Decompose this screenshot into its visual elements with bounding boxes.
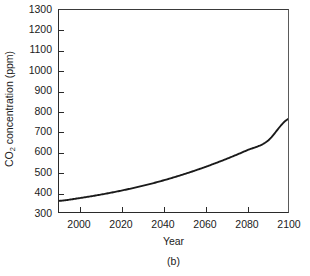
y-tick-label: 1200 <box>18 24 52 35</box>
y-tick-mark <box>59 71 64 72</box>
y-tick-label: 400 <box>18 187 52 198</box>
co2-concentration-chart: CO2 concentration (ppm) 3004005006007008… <box>0 0 310 276</box>
x-tick-label: 2060 <box>182 218 228 231</box>
y-tick-mark <box>59 30 64 31</box>
x-tick-mark <box>80 207 81 212</box>
y-axis-label: CO2 concentration (ppm) <box>2 2 16 216</box>
y-tick-label: 300 <box>18 208 52 219</box>
y-tick-label: 1100 <box>18 44 52 55</box>
y-tick-label: 800 <box>18 106 52 117</box>
y-axis-tick-labels: 3004005006007008009001000110012001300 <box>18 0 52 276</box>
y-tick-mark <box>59 51 64 52</box>
x-tick-label: 2020 <box>98 218 144 231</box>
x-tick-mark <box>248 207 249 212</box>
y-tick-mark <box>59 112 64 113</box>
y-tick-mark <box>59 194 64 195</box>
y-axis-label-subscript: 2 <box>8 147 17 151</box>
x-tick-label: 2040 <box>140 218 186 231</box>
plot-area <box>58 9 289 213</box>
y-tick-label: 600 <box>18 146 52 157</box>
x-tick-label: 2100 <box>266 218 310 231</box>
x-tick-mark <box>164 207 165 212</box>
x-tick-label: 2000 <box>56 218 102 231</box>
y-tick-mark <box>59 92 64 93</box>
x-axis-tick-labels: 200020202040206020802100 <box>58 218 289 232</box>
y-axis-label-suffix: concentration (ppm) <box>3 51 15 147</box>
y-tick-mark <box>59 132 64 133</box>
x-axis-label: Year <box>58 235 289 247</box>
y-tick-mark <box>59 173 64 174</box>
y-tick-mark <box>59 153 64 154</box>
y-tick-label: 1300 <box>18 4 52 15</box>
y-tick-label: 500 <box>18 167 52 178</box>
x-tick-label: 2080 <box>224 218 270 231</box>
y-tick-label: 1000 <box>18 65 52 76</box>
x-tick-mark <box>122 207 123 212</box>
y-tick-label: 700 <box>18 126 52 137</box>
y-tick-label: 900 <box>18 85 52 96</box>
x-tick-mark <box>206 207 207 212</box>
figure-caption: (b) <box>58 255 289 267</box>
y-axis-label-prefix: CO <box>3 151 15 167</box>
co2-curve <box>59 10 288 212</box>
